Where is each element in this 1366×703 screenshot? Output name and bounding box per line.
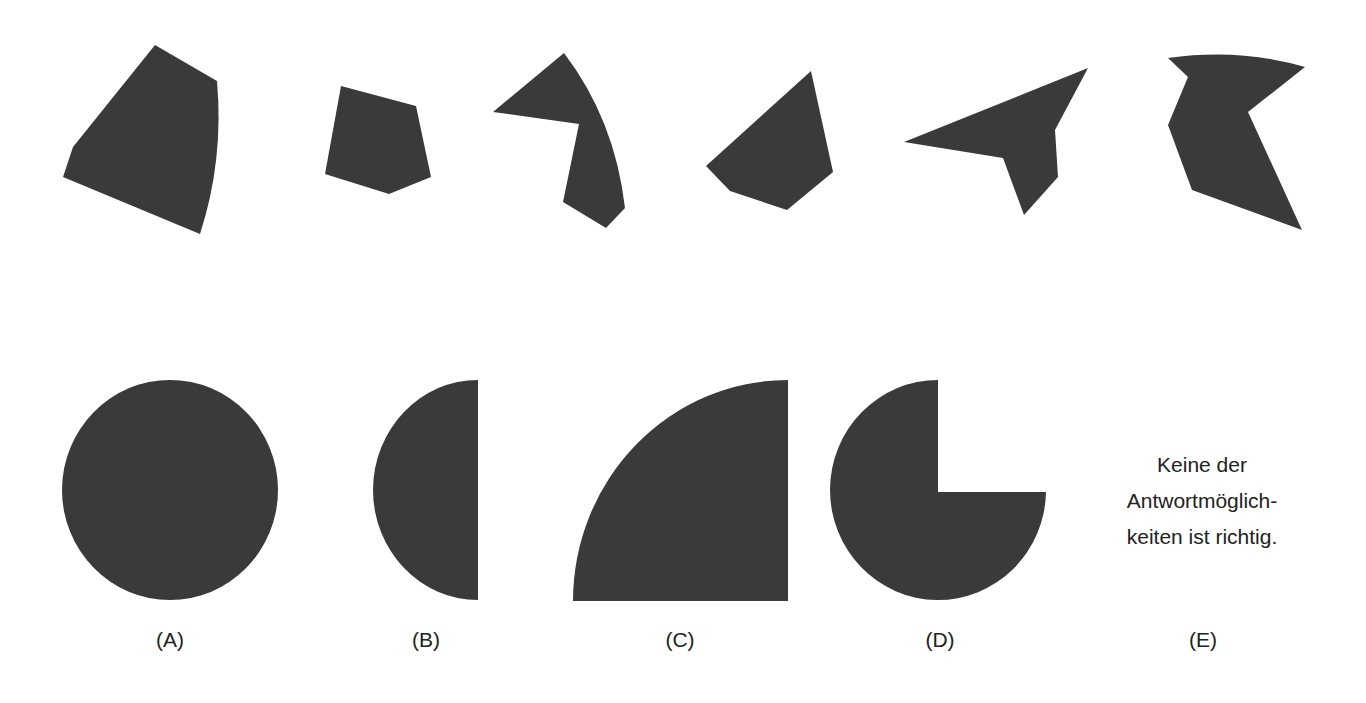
answer-label-c[interactable]: (C) [665, 628, 694, 652]
puzzle-pieces-row [63, 45, 1305, 234]
puzzle-piece-2 [325, 86, 431, 194]
answer-b-half-circle-shape[interactable] [373, 380, 478, 600]
answer-shapes-row [62, 380, 1046, 601]
answer-e-line-2: Antwortmöglich- [1127, 483, 1278, 519]
figure-canvas [0, 0, 1366, 703]
puzzle-piece-4 [706, 71, 833, 210]
answer-label-d[interactable]: (D) [925, 628, 954, 652]
puzzle-piece-5 [904, 68, 1088, 215]
answer-e-none-correct-text[interactable]: Keine der Antwortmöglich- keiten ist ric… [1127, 447, 1278, 555]
answer-e-line-3: keiten ist richtig. [1127, 519, 1278, 555]
puzzle-piece-1 [63, 45, 219, 234]
puzzle-piece-6 [1168, 55, 1305, 230]
answer-e-line-1: Keine der [1127, 447, 1278, 483]
puzzle-piece-3 [493, 53, 625, 228]
answer-label-a[interactable]: (A) [156, 628, 184, 652]
answer-d-three-quarter-circle-shape[interactable] [830, 380, 1046, 600]
answer-label-b[interactable]: (B) [412, 628, 440, 652]
answer-c-quarter-circle-shape[interactable] [573, 380, 788, 601]
answer-label-e[interactable]: (E) [1189, 628, 1217, 652]
answer-a-circle-shape[interactable] [62, 380, 278, 600]
